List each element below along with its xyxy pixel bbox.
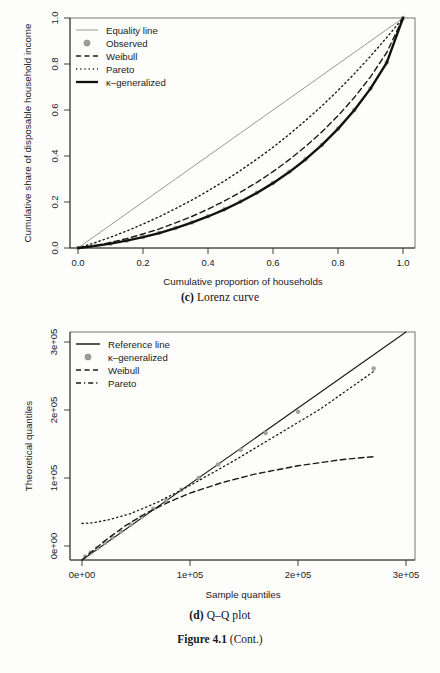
figure-number: Figure 4.1 xyxy=(177,633,227,645)
legend-swatch-kappa-circle xyxy=(85,354,91,360)
data-point xyxy=(296,410,300,414)
qq-ytick-3: 3e+05 xyxy=(48,329,59,356)
caption-qq-tag: (d) xyxy=(189,609,203,621)
lorenz-ytick-1: 0.2 xyxy=(49,195,60,208)
lorenz-plot-svg: 0.0 0.2 0.4 0.6 0.8 1.0 0.0 0.2 0.4 0.6 xyxy=(0,0,440,305)
qq-xtick-0: 0e+00 xyxy=(69,569,96,580)
lorenz-legend: Equality line Observed Weibull Pareto κ–… xyxy=(76,25,166,88)
qq-x-axis: 0e+00 1e+05 2e+05 3e+05 xyxy=(69,560,420,580)
data-point xyxy=(216,463,220,467)
qq-legend: Reference line κ–generalized Weibull Par… xyxy=(76,339,170,389)
data-point xyxy=(239,448,243,452)
lorenz-xtick-4: 0.8 xyxy=(331,257,344,268)
legend-label-equality-line: Equality line xyxy=(106,25,158,36)
legend-label-weibull: Weibull xyxy=(108,365,139,376)
qq-ytick-0: 0e+00 xyxy=(48,533,59,560)
data-point xyxy=(372,366,376,370)
lorenz-xtick-5: 1.0 xyxy=(396,257,409,268)
caption-lorenz-tag: (c) xyxy=(181,291,194,303)
lorenz-xtick-3: 0.6 xyxy=(266,257,279,268)
qq-plot-panel: 0e+00 1e+05 2e+05 3e+05 0e+00 1e+05 2e+0… xyxy=(0,318,440,618)
legend-label-kappa-generalized: κ–generalized xyxy=(106,77,166,88)
legend-label-weibull: Weibull xyxy=(106,51,137,62)
qq-ytick-1: 1e+05 xyxy=(48,465,59,492)
lorenz-ytick-2: 0.4 xyxy=(49,149,60,162)
figure-page: 0.0 0.2 0.4 0.6 0.8 1.0 0.0 0.2 0.4 0.6 xyxy=(0,0,440,673)
caption-qq: (d) Q–Q plot xyxy=(0,609,440,621)
lorenz-xlabel: Cumulative proportion of households xyxy=(163,276,323,287)
legend-label-observed: Observed xyxy=(106,38,148,49)
figure-label: Figure 4.1 (Cont.) xyxy=(0,633,440,645)
legend-swatch-observed-circle xyxy=(84,40,90,46)
qq-xtick-2: 2e+05 xyxy=(285,569,312,580)
lorenz-xtick-1: 0.2 xyxy=(136,257,149,268)
data-point xyxy=(264,431,268,435)
lorenz-ylabel: Cumulative share of disposable household… xyxy=(22,23,33,242)
figure-cont-suffix: (Cont.) xyxy=(230,633,263,645)
legend-label-kappa-generalized: κ–generalized xyxy=(108,352,168,363)
qq-ytick-2: 2e+05 xyxy=(48,397,59,424)
legend-label-reference-line: Reference line xyxy=(108,339,170,350)
caption-qq-text: Q–Q plot xyxy=(207,609,251,621)
series-line xyxy=(82,457,374,560)
lorenz-curve-panel: 0.0 0.2 0.4 0.6 0.8 1.0 0.0 0.2 0.4 0.6 xyxy=(0,0,440,305)
legend-label-pareto: Pareto xyxy=(108,378,136,389)
qq-y-axis: 0e+00 1e+05 2e+05 3e+05 xyxy=(48,329,70,560)
lorenz-y-axis: 0.0 0.2 0.4 0.6 0.8 1.0 xyxy=(49,11,70,254)
lorenz-xtick-2: 0.4 xyxy=(201,257,214,268)
qq-xtick-1: 1e+05 xyxy=(177,569,204,580)
lorenz-ytick-0: 0.0 xyxy=(49,241,60,254)
lorenz-ytick-4: 0.8 xyxy=(49,57,60,70)
caption-lorenz-text: Lorenz curve xyxy=(197,291,259,303)
lorenz-x-axis: 0.0 0.2 0.4 0.6 0.8 1.0 xyxy=(70,248,415,268)
caption-lorenz: (c) Lorenz curve xyxy=(0,291,440,303)
lorenz-ytick-5: 1.0 xyxy=(49,11,60,24)
qq-ylabel: Theoretical quantiles xyxy=(23,401,34,492)
legend-label-pareto: Pareto xyxy=(106,64,134,75)
qq-xlabel: Sample quantiles xyxy=(205,589,280,600)
lorenz-xtick-0: 0.0 xyxy=(71,257,84,268)
qq-xtick-3: 3e+05 xyxy=(393,569,420,580)
lorenz-ytick-3: 0.6 xyxy=(49,103,60,116)
qq-plot-svg: 0e+00 1e+05 2e+05 3e+05 0e+00 1e+05 2e+0… xyxy=(0,318,440,618)
series-line xyxy=(82,372,374,524)
data-point xyxy=(164,498,168,502)
